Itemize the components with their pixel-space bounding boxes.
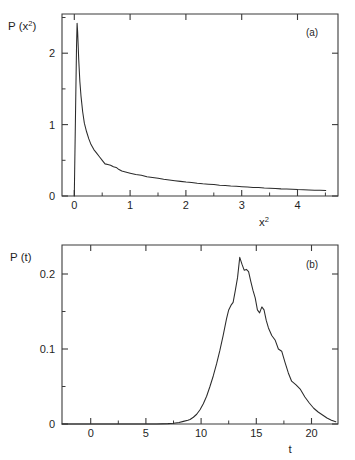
panel-b-xticks-major	[91, 245, 312, 424]
panel-a: 0 1 2 3 4 0 1 2 P (x2) x2 (a)	[8, 14, 338, 228]
figure-container: 0 1 2 3 4 0 1 2 P (x2) x2 (a)	[0, 0, 355, 460]
panel-a-xticklabel-1: 1	[127, 199, 133, 211]
panel-a-curve	[74, 23, 325, 196]
panel-a-yticklabel-2: 2	[49, 47, 55, 59]
panel-a-yticklabel-0: 0	[49, 190, 55, 202]
panel-a-yticklabels: 0 1 2	[49, 47, 55, 202]
panel-a-xticklabel-3: 3	[239, 199, 245, 211]
panel-b-xticklabel-1: 5	[143, 427, 149, 439]
panel-a-xticklabel-2: 2	[183, 199, 189, 211]
panel-a-ylabel-suffix: )	[32, 20, 36, 32]
panel-a-xticklabels: 0 1 2 3 4	[71, 199, 300, 211]
panel-b-xlabel: t	[288, 443, 292, 455]
panel-b-xticklabel-2: 10	[195, 427, 207, 439]
panel-a-tag: (a)	[306, 27, 318, 38]
panel-b-xticklabel-3: 15	[250, 427, 262, 439]
panel-a-xticklabel-4: 4	[294, 199, 300, 211]
panel-b-curve	[62, 257, 336, 424]
panel-b-yticks-major	[62, 274, 338, 424]
panel-b-yticklabel-0: 0	[49, 418, 55, 430]
panel-b-yticklabels: 0 0.1 0.2	[40, 268, 55, 430]
panel-a-ylabel-prefix: P (x	[8, 20, 28, 32]
panel-b-yticklabel-1: 0.1	[40, 343, 55, 355]
panel-a-xlabel: x2	[259, 215, 269, 228]
panel-b-xticklabel-4: 20	[305, 427, 317, 439]
panel-a-yticks-major	[62, 53, 338, 196]
figure-svg: 0 1 2 3 4 0 1 2 P (x2) x2 (a)	[0, 0, 355, 460]
panel-a-ylabel: P (x2)	[8, 19, 36, 32]
panel-a-xticklabel-0: 0	[71, 199, 77, 211]
panel-a-frame	[62, 14, 338, 196]
panel-a-yticklabel-1: 1	[49, 119, 55, 131]
panel-b-frame	[62, 245, 338, 424]
panel-b: 0 5 10 15 20 0 0.1 0.2 P (t) t (b)	[10, 245, 338, 455]
panel-b-xticklabels: 0 5 10 15 20	[88, 427, 318, 439]
panel-b-xticklabel-0: 0	[88, 427, 94, 439]
panel-b-yticklabel-2: 0.2	[40, 268, 55, 280]
panel-b-ylabel: P (t)	[10, 251, 32, 263]
panel-b-tag: (b)	[306, 259, 318, 270]
panel-a-xticks-major	[74, 14, 297, 196]
panel-a-xlabel-sup: 2	[265, 215, 269, 224]
